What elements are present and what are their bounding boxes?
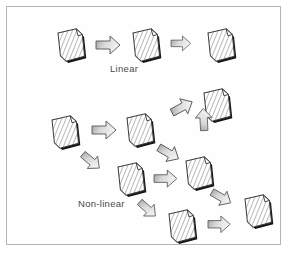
block-arrow-icon	[154, 170, 177, 187]
block-arrow-icon	[208, 185, 235, 210]
document-page-icon	[208, 28, 237, 64]
block-arrow-icon	[208, 216, 230, 233]
document-page-icon	[52, 115, 81, 151]
block-arrow-icon	[134, 196, 160, 222]
block-arrow-icon	[96, 36, 120, 54]
document-page-icon	[245, 194, 274, 230]
document-page-icon	[204, 88, 233, 124]
document-page-icon	[133, 28, 162, 64]
document-page-icon	[118, 162, 147, 198]
block-arrow-icon	[78, 148, 105, 174]
document-page-icon	[169, 209, 198, 245]
diagram-canvas: Linear Non-linear	[0, 0, 289, 253]
label-nonlinear: Non-linear	[78, 198, 125, 209]
diagram-graphics-layer	[0, 0, 289, 253]
block-arrow-icon	[92, 121, 116, 139]
document-page-icon	[58, 28, 87, 64]
document-page-icon	[127, 113, 156, 149]
label-linear: Linear	[110, 63, 138, 74]
block-arrow-icon	[168, 94, 196, 120]
document-nodes-layer	[52, 28, 274, 245]
document-page-icon	[186, 156, 215, 192]
block-arrow-icon	[154, 140, 182, 166]
block-arrow-icon	[171, 36, 191, 51]
